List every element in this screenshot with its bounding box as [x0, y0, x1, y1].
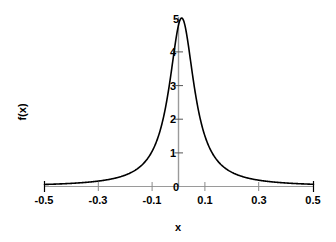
x-tick-label-0.1: 0.1 [197, 195, 212, 206]
y-tick-label-0: 0 [173, 182, 179, 193]
x-tick-label--0.3: -0.3 [89, 195, 108, 206]
chart-figure: -0.5 -0.3 -0.1 0.1 0.3 0.5 0 1 2 3 4 5 x… [0, 0, 336, 242]
y-tick-label-2: 2 [170, 114, 176, 125]
x-tick-label--0.1: -0.1 [143, 195, 162, 206]
y-tick-label-3: 3 [170, 81, 176, 92]
x-tick-label--0.5: -0.5 [35, 195, 54, 206]
y-tick-label-4: 4 [170, 47, 176, 58]
x-tick-label-0.3: 0.3 [251, 195, 266, 206]
x-axis-title: x [175, 222, 181, 233]
y-tick-label-5: 5 [173, 14, 179, 25]
x-tick-label-0.5: 0.5 [305, 195, 320, 206]
y-tick-label-1: 1 [170, 148, 176, 159]
y-axis-title: f(x) [17, 103, 28, 120]
